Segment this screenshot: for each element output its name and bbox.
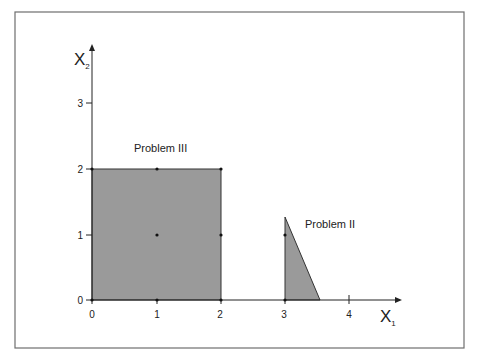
y-axis-arrow-icon: [89, 44, 95, 51]
y-axis-label: X2: [74, 50, 90, 71]
x-tick-label: 3: [281, 309, 287, 320]
y-tick-label: 1: [77, 230, 83, 241]
y-tick-label: 2: [77, 164, 83, 175]
y-tick-label: 3: [77, 98, 83, 109]
x-tick-label: 1: [154, 309, 160, 320]
x-axis-label: X1: [380, 307, 396, 328]
feasible-region-diagram: 0 1 2 3 4 0 1 2 3 X2 X1 Problem III Prob…: [0, 0, 477, 356]
y-ticks: [86, 103, 92, 300]
x-tick-label: 4: [346, 309, 352, 320]
problem-iii-label: Problem III: [134, 142, 187, 154]
x-tick-label: 2: [217, 309, 223, 320]
y-tick-label: 0: [77, 295, 83, 306]
problem-ii-label: Problem II: [305, 218, 355, 230]
x-tick-label: 0: [89, 309, 95, 320]
x-axis-arrow-icon: [395, 297, 402, 303]
